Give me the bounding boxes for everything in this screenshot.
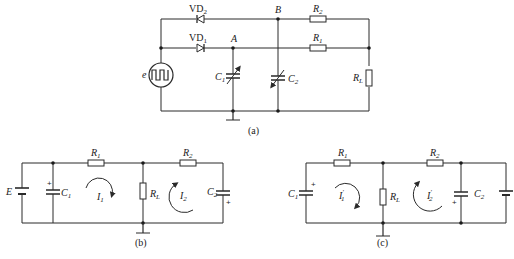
- junction-dot: [459, 221, 463, 225]
- rl-label: RL: [149, 188, 160, 201]
- ground-icon: [226, 111, 240, 120]
- diagram-c: + C1 R1 RL R2 + C2 I′1: [288, 147, 513, 249]
- r1-label: R1: [90, 147, 101, 160]
- junction-dot: [367, 46, 371, 50]
- node-b-label: B: [275, 4, 281, 15]
- resistor-r2: [310, 16, 326, 22]
- resistor-r2: [180, 160, 196, 166]
- ground-icon: [136, 223, 150, 233]
- caption-b: (b): [135, 237, 147, 249]
- r2-label: R2: [429, 147, 440, 160]
- battery-label: E: [5, 186, 12, 197]
- i1-label: I1: [96, 191, 104, 204]
- caption-a: (a): [248, 125, 259, 137]
- i2-prime-label: I′2: [426, 188, 433, 203]
- c1-label: C1: [288, 188, 298, 201]
- rl-label: RL: [352, 72, 363, 85]
- diode-vd2-icon: [197, 15, 204, 23]
- caption-c: (c): [377, 237, 388, 249]
- resistor-rl: [366, 70, 372, 86]
- junction-dot: [141, 161, 145, 165]
- top-wire: [326, 19, 369, 66]
- i2-label: I2: [179, 190, 187, 203]
- ground-icon: [376, 223, 390, 236]
- battery-icon: [499, 191, 513, 195]
- capacitor-c2-icon: [454, 192, 468, 196]
- circuit-figure: e VD2 VD1 A B C1: [0, 0, 514, 259]
- r2-label: R2: [182, 147, 193, 160]
- resistor-r1: [88, 160, 104, 166]
- rl-label: RL: [389, 191, 400, 204]
- r1-label: R1: [312, 32, 323, 45]
- c2-label: C2: [207, 186, 218, 199]
- diagram-b: E + C1 R1 RL R2 + C2 I1 I2: [5, 147, 231, 249]
- junction-dot: [159, 46, 163, 50]
- square-wave-source-icon: [149, 63, 173, 87]
- resistor-r1: [310, 45, 326, 51]
- node-a-dot: [231, 46, 235, 50]
- c2-plus: +: [226, 198, 231, 207]
- bottom-wire: [161, 87, 369, 111]
- vd2-label: VD2: [189, 3, 207, 16]
- junction-dot: [459, 161, 463, 165]
- c1-plus: +: [47, 179, 52, 188]
- junction-dot: [381, 161, 385, 165]
- c1-plus: +: [311, 180, 316, 189]
- c2-plus: +: [452, 198, 457, 207]
- diode-vd1-icon: [197, 44, 204, 52]
- source-label: e: [142, 69, 147, 80]
- capacitor-c1-icon: [46, 190, 60, 194]
- capacitor-c1-icon: [299, 191, 313, 195]
- c1-label: C1: [215, 71, 225, 84]
- r1-label: R1: [337, 147, 348, 160]
- c2-label: C2: [474, 188, 485, 201]
- c2-label: C2: [288, 73, 299, 86]
- vd1-label: VD1: [189, 32, 207, 45]
- node-a-label: A: [230, 33, 238, 44]
- resistor-r2: [427, 160, 443, 166]
- battery-icon: [15, 188, 29, 194]
- resistor-r1: [334, 160, 350, 166]
- diagram-a: e VD2 VD1 A B C1: [142, 3, 372, 137]
- resistor-rl: [140, 183, 146, 199]
- resistor-rl: [380, 189, 386, 205]
- node-b-dot: [276, 17, 280, 21]
- capacitor-c2-icon: [216, 191, 230, 195]
- c1-label: C1: [61, 187, 71, 200]
- i1-prime-label: I′1: [338, 188, 344, 203]
- junction-dot: [51, 161, 55, 165]
- loop-wires: [22, 163, 223, 223]
- junction-dot: [276, 109, 280, 113]
- r2-label: R2: [312, 3, 323, 16]
